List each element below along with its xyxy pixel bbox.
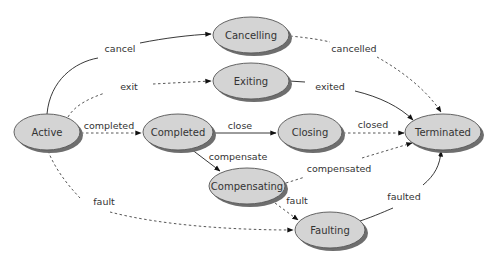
edge-label-close: close <box>228 120 253 131</box>
state-label-terminated: Terminated <box>414 127 471 138</box>
edge-label-fault-compensating: fault <box>286 195 308 206</box>
edge-label-closed: closed <box>358 119 389 130</box>
edge-label-cancelled: cancelled <box>331 43 376 54</box>
edge-fault-compensating <box>275 203 298 220</box>
edge-label-fault-active: fault <box>93 196 115 207</box>
state-terminated: Terminated <box>405 114 484 153</box>
state-label-closing: Closing <box>292 127 329 138</box>
edge-label-completed: completed <box>84 120 134 131</box>
state-label-cancelling: Cancelling <box>225 30 277 41</box>
edge-label-exit: exit <box>120 81 138 92</box>
edge-label-compensate: compensate <box>209 151 268 162</box>
edge-faulted <box>360 151 441 221</box>
state-compensating: Compensating <box>209 168 288 207</box>
edge-label-compensated: compensated <box>307 163 372 174</box>
state-closing: Closing <box>278 114 345 153</box>
state-label-compensating: Compensating <box>211 181 283 192</box>
state-label-exiting: Exiting <box>234 76 268 87</box>
edge-label-exited: exited <box>315 81 345 92</box>
state-exiting: Exiting <box>213 63 292 102</box>
state-active: Active <box>14 114 83 153</box>
edge-label-faulted: faulted <box>387 191 420 202</box>
nodes: Active Cancelling Exiting Completed Clos… <box>14 17 484 251</box>
edge-exit <box>68 81 211 117</box>
state-faulting: Faulting <box>295 212 368 251</box>
state-diagram: cancel exit completed fault cancelled ex… <box>0 0 490 264</box>
state-label-active: Active <box>32 127 63 138</box>
state-completed: Completed <box>143 114 216 153</box>
state-label-completed: Completed <box>151 127 206 138</box>
state-cancelling: Cancelling <box>213 17 292 56</box>
state-label-faulting: Faulting <box>310 225 349 236</box>
edge-label-cancel: cancel <box>105 43 136 54</box>
